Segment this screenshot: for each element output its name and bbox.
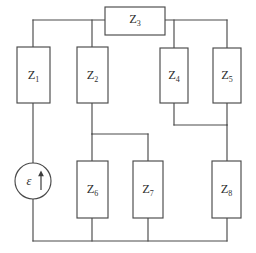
wire-group (33, 20, 227, 241)
impedance-z2: Z2 (77, 47, 108, 103)
impedance-z3: Z3 (105, 7, 165, 35)
impedance-z6: Z6 (77, 161, 108, 218)
impedance-z5: Z5 (213, 48, 241, 103)
impedance-z7: Z7 (133, 161, 163, 218)
emf-source-label: ε (27, 174, 32, 188)
impedance-z1: Z1 (17, 47, 50, 103)
impedance-z8: Z8 (212, 161, 241, 218)
emf-source-circle (15, 163, 51, 199)
emf-source: ε (15, 163, 51, 199)
impedance-z4: Z4 (160, 48, 188, 103)
circuit-diagram: Z1 Z2 Z3 Z4 Z5 (0, 0, 256, 253)
circuit-canvas: Z1 Z2 Z3 Z4 Z5 (0, 0, 256, 253)
